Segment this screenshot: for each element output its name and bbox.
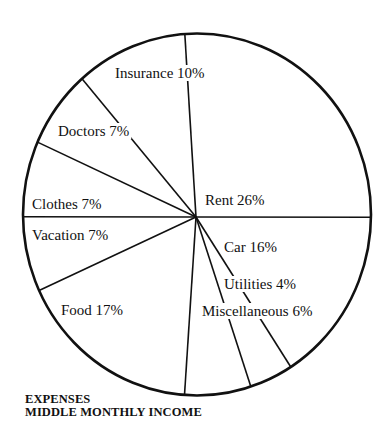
pie-outline <box>23 34 371 396</box>
slice-label-insurance: Insurance 10% <box>115 65 205 81</box>
slice-label-car: Car 16% <box>224 239 277 255</box>
slice-label-food: Food 17% <box>61 302 123 318</box>
slice-label-doctors: Doctors 7% <box>58 123 129 139</box>
slice-label-vacation: Vacation 7% <box>32 227 108 243</box>
slice-label-clothes: Clothes 7% <box>32 196 102 212</box>
slice-label-utilities: Utilities 4% <box>224 276 296 292</box>
chart-subtitle: MIDDLE MONTHLY INCOME <box>25 406 202 419</box>
slice-label-rent: Rent 26% <box>205 192 265 208</box>
pie-chart: Rent 26%Car 16%Utilities 4%Miscellaneous… <box>0 0 390 430</box>
slice-label-miscellaneous: Miscellaneous 6% <box>202 303 312 319</box>
chart-title-block: EXPENSES MIDDLE MONTHLY INCOME <box>25 393 202 419</box>
